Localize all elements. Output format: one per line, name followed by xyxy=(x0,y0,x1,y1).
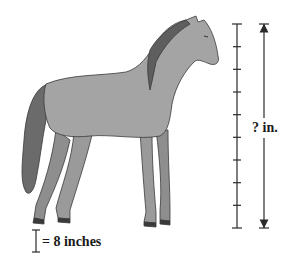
unknown-height-label: ? in. xyxy=(252,118,278,138)
horse-icon xyxy=(22,16,219,227)
legend-unit-bar-icon xyxy=(32,230,40,252)
horse-measurement-figure: ? in. = 8 inches xyxy=(0,0,289,268)
scale-ruler xyxy=(232,24,242,228)
horse-illustration xyxy=(0,0,289,268)
scale-legend-text: = 8 inches xyxy=(42,234,101,250)
